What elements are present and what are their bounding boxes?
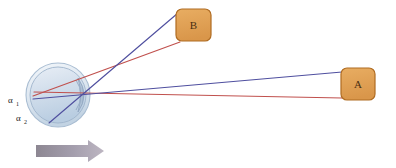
ray-diagram: α 1 α 2 B A — [0, 0, 396, 168]
target-b-label: B — [190, 19, 197, 31]
target-b[interactable]: B — [176, 9, 211, 41]
alpha-1-symbol: α — [8, 95, 13, 105]
angle-labels: α 1 α 2 — [8, 95, 27, 125]
target-a[interactable]: A — [341, 68, 375, 100]
motion-direction-arrow — [36, 140, 104, 162]
figure-canvas: α 1 α 2 B A — [0, 0, 396, 168]
alpha-2-symbol: α — [16, 113, 21, 123]
alpha-2-subscript: 2 — [24, 119, 27, 125]
target-a-label: A — [354, 78, 362, 90]
arrow-shape — [36, 140, 104, 162]
alpha-1-subscript: 1 — [16, 101, 19, 107]
